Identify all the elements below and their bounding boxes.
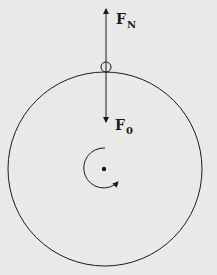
normal-force-label-sub: N [127,19,136,30]
normal-force-label-main: F [116,11,126,27]
weight-force-label: F0 [115,118,133,132]
rotation-arrow-icon [84,148,118,188]
force-diagram [0,0,217,275]
weight-force-label-sub: 0 [126,125,133,136]
axis-dot [102,167,106,171]
normal-force-label: FN [116,12,136,26]
weight-force-label-main: F [115,117,125,133]
